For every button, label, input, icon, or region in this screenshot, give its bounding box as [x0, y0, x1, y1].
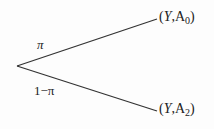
outcome-label: A — [175, 9, 185, 24]
upper-outcome-node: (Y,A0) — [159, 9, 195, 26]
prob-text: π — [37, 37, 44, 52]
upper-branch-probability: π — [37, 37, 44, 53]
probability-tree-diagram: π 1−π (Y,A0) (Y,A2) — [0, 0, 214, 129]
outcome-label: A — [175, 101, 185, 116]
lower-outcome-node: (Y,A2) — [159, 101, 195, 118]
outcome-subscript: 2 — [185, 107, 190, 118]
outcome-subscript: 0 — [185, 15, 190, 26]
lower-branch-probability: 1−π — [34, 83, 54, 99]
prob-text: 1−π — [34, 83, 54, 98]
